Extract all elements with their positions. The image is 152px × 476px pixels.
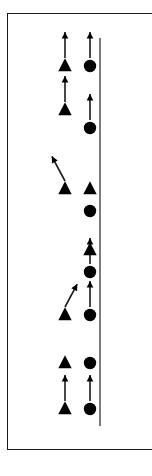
circle-marker xyxy=(84,266,96,278)
vector-arrow xyxy=(62,375,69,401)
vector-arrowhead xyxy=(87,375,94,381)
vector-arrow xyxy=(65,284,77,307)
circle-marker xyxy=(84,403,96,415)
vector-arrowhead xyxy=(87,281,94,287)
triangle-marker xyxy=(58,102,71,115)
marker-layer xyxy=(52,32,97,415)
triangle-marker xyxy=(58,355,71,368)
vector-arrowhead xyxy=(87,32,94,38)
triangle-marker xyxy=(83,242,96,255)
circle-marker xyxy=(84,357,96,369)
plot-area xyxy=(0,0,152,476)
circle-marker xyxy=(84,309,96,321)
vector-arrowhead xyxy=(62,375,69,381)
vector-arrowhead xyxy=(62,32,69,38)
circle-marker xyxy=(84,205,96,217)
triangle-marker xyxy=(58,58,71,71)
triangle-marker xyxy=(83,181,96,194)
triangle-marker xyxy=(58,401,71,414)
vector-arrow xyxy=(87,281,94,307)
vector-arrow xyxy=(62,76,69,102)
vector-arrow xyxy=(62,32,69,58)
triangle-marker xyxy=(58,181,71,194)
scatter-plot-svg xyxy=(0,0,152,476)
figure-root xyxy=(0,0,152,476)
vector-arrowhead xyxy=(62,76,69,82)
circle-marker xyxy=(84,60,96,72)
vector-arrow xyxy=(52,156,65,181)
vector-arrow xyxy=(87,375,94,401)
vector-arrow xyxy=(87,32,94,58)
triangle-marker xyxy=(58,307,71,320)
vector-arrowhead xyxy=(87,94,94,100)
vector-arrow xyxy=(87,94,94,120)
circle-marker xyxy=(84,122,96,134)
